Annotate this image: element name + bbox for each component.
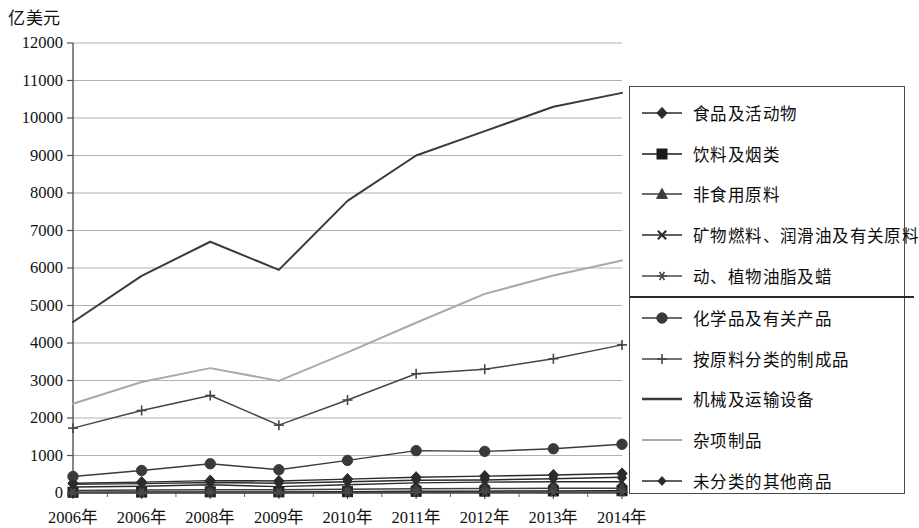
series-8	[73, 261, 622, 404]
y-tick-label: 5000	[30, 296, 63, 316]
y-tick-label: 7000	[30, 221, 63, 241]
y-tick-label: 9000	[30, 146, 63, 166]
legend-item[interactable]: 杂项制品	[640, 420, 904, 461]
marker-circle	[411, 445, 421, 455]
legend-item-label: 饮料及烟类	[693, 142, 780, 166]
legend-item[interactable]: 矿物燃料、润滑油及有关原料	[640, 215, 904, 256]
legend-item[interactable]: 按原料分类的制成品	[640, 339, 904, 380]
marker-circle	[480, 446, 490, 456]
marker-circle	[205, 459, 215, 469]
y-tick-label: 12000	[22, 33, 63, 53]
legend-marker-none-icon	[640, 390, 684, 408]
legend-item-label: 杂项制品	[693, 428, 763, 452]
legend-item[interactable]: 未分类的其他商品	[640, 460, 904, 501]
legend-marker-square-icon	[640, 145, 684, 163]
marker-square	[657, 149, 667, 159]
legend-item[interactable]: 非食用原料	[640, 174, 904, 215]
legend-marker-diamond-icon	[640, 104, 684, 122]
legend-item-label: 矿物燃料、润滑油及有关原料	[693, 223, 919, 247]
y-tick-label: 6000	[30, 258, 63, 278]
x-tick-label: 2006年	[48, 504, 98, 528]
x-tick-label: 2010年	[323, 504, 373, 528]
legend-marker-circle-icon	[640, 309, 684, 327]
legend-item[interactable]: 食品及活动物	[640, 93, 904, 134]
series-line	[73, 93, 622, 322]
marker-small-diamond	[658, 476, 666, 485]
legend-item-label: 化学品及有关产品	[693, 306, 832, 330]
legend-item[interactable]: 动、植物油脂及蜡	[640, 255, 904, 296]
legend-marker-triangle-icon	[640, 185, 684, 203]
x-tick-label: 2012年	[460, 504, 510, 528]
legend-item-label: 食品及活动物	[693, 101, 797, 125]
marker-circle	[548, 444, 558, 454]
plot-area: 0100020003000400050006000700080009000100…	[0, 0, 650, 522]
marker-circle	[657, 313, 667, 323]
y-tick-label: 8000	[30, 183, 63, 203]
series-6	[68, 340, 627, 433]
legend-item-label: 按原料分类的制成品	[693, 347, 850, 371]
x-tick-label: 2013年	[528, 504, 578, 528]
y-tick-label: 10000	[22, 108, 63, 128]
y-tick-label: 11000	[22, 71, 63, 91]
marker-circle	[342, 455, 352, 465]
chart-legend: 食品及活动物饮料及烟类非食用原料矿物燃料、润滑油及有关原料动、植物油脂及蜡化学品…	[629, 86, 905, 494]
marker-circle	[617, 439, 627, 449]
y-tick-label: 2000	[30, 408, 63, 428]
marker-circle	[136, 465, 146, 475]
x-tick-label: 2008年	[185, 504, 235, 528]
x-tick-label: 2009年	[254, 504, 304, 528]
legend-item-label: 未分类的其他商品	[693, 469, 832, 493]
series-7	[73, 93, 622, 322]
x-tick-label: 2006年	[117, 504, 167, 528]
legend-item[interactable]: 饮料及烟类	[640, 134, 904, 175]
x-tick-label: 2014年	[597, 504, 647, 528]
legend-item-label: 非食用原料	[693, 182, 780, 206]
legend-item[interactable]: 化学品及有关产品	[640, 298, 904, 339]
legend-item-label: 动、植物油脂及蜡	[693, 264, 832, 288]
y-tick-label: 0	[55, 483, 63, 503]
y-tick-label: 4000	[30, 333, 63, 353]
legend-item-label: 机械及运输设备	[693, 387, 815, 411]
legend-marker-plus-icon	[640, 350, 684, 368]
marker-diamond	[657, 108, 667, 119]
legend-marker-small-diamond-icon	[640, 472, 684, 490]
legend-item[interactable]: 机械及运输设备	[640, 379, 904, 420]
line-chart-svg	[0, 0, 650, 522]
legend-marker-x-icon	[640, 226, 684, 244]
marker-circle	[274, 465, 284, 475]
series-line	[73, 261, 622, 404]
y-tick-label: 3000	[30, 371, 63, 391]
y-tick-label: 1000	[30, 446, 63, 466]
series-line	[73, 345, 622, 428]
legend-marker-none-light-icon	[640, 431, 684, 449]
legend-marker-asterisk-icon	[640, 267, 684, 285]
legend-divider	[630, 296, 914, 298]
x-tick-label: 2011年	[391, 504, 440, 528]
